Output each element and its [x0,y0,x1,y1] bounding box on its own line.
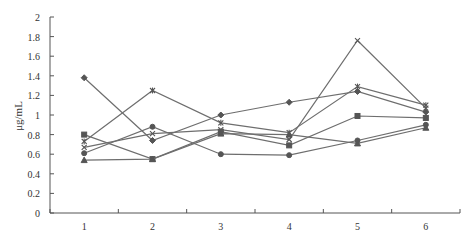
y-axis-label: μg/mL [12,101,24,131]
chart-series [81,38,429,163]
chart-axes: 00.20.40.60.811.21.41.61.82123456 [28,12,461,232]
y-tick-label: 2 [35,12,40,23]
circle-marker [82,151,87,156]
series-line [82,38,429,150]
circle-marker [355,138,360,143]
diamond-marker [286,99,292,105]
diamond-marker [218,112,224,118]
circle-marker [423,122,428,127]
x-tick-label: 1 [82,221,87,232]
star-marker [150,88,155,94]
x-tick-label: 2 [150,221,155,232]
square-marker [287,143,292,148]
y-tick-label: 1.4 [28,71,41,82]
series-line [81,75,429,144]
y-tick-label: 0.4 [28,169,41,180]
x-tick-label: 3 [218,221,223,232]
square-marker [355,113,360,118]
y-tick-label: 0 [35,208,40,219]
chart-canvas: 00.20.40.60.811.21.41.61.82123456 μg/mL [0,0,470,249]
series-line [82,84,429,145]
y-tick-label: 0.2 [28,188,41,199]
square-marker [423,115,428,120]
line-chart: 00.20.40.60.811.21.41.61.82123456 μg/mL [0,0,470,249]
y-tick-label: 0.8 [28,130,41,141]
x-tick-label: 6 [423,221,428,232]
circle-marker [218,152,223,157]
series-path [84,78,426,141]
y-tick-label: 1.6 [28,51,41,62]
x-tick-label: 4 [287,221,292,232]
x-tick-label: 5 [355,221,360,232]
star-marker [82,138,87,144]
series-line [81,125,429,163]
circle-marker [150,124,155,129]
y-tick-label: 1.2 [28,90,41,101]
x-marker [355,38,360,43]
square-marker [82,132,87,137]
circle-marker [287,153,292,158]
y-tick-label: 0.6 [28,149,41,160]
series-path [84,41,426,148]
y-tick-label: 1.8 [28,32,41,43]
y-tick-label: 1 [35,110,40,121]
